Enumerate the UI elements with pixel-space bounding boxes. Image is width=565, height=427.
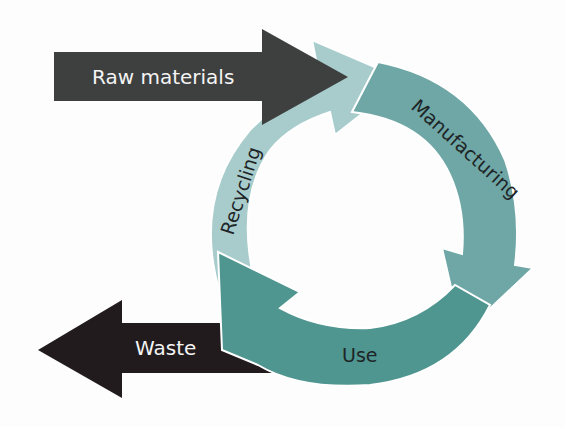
waste-label: Waste <box>135 336 196 360</box>
raw-materials-label: Raw materials <box>92 65 234 89</box>
circular-economy-diagram: Raw materials Waste Use Manufacturing Re… <box>0 0 565 427</box>
use-label: Use <box>342 344 378 366</box>
